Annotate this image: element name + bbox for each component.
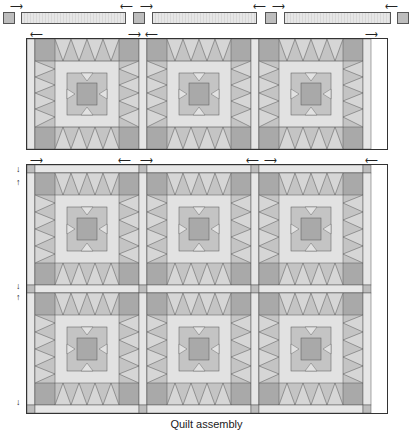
arrow-down-icon: ↓ [16, 398, 21, 407]
diagram-caption: Quilt assembly [0, 418, 413, 430]
block-row-1 [26, 38, 388, 150]
cornerstone-2 [133, 12, 145, 24]
arrow-right-icon: ⟶ [272, 2, 285, 11]
arrow-up-icon: ↑ [16, 293, 21, 302]
block-row-1-art [27, 39, 387, 149]
sashing-strip-1 [21, 12, 126, 24]
arrow-up-icon: ↑ [16, 178, 21, 187]
arrow-right-icon: ⟶ [140, 2, 153, 11]
arrow-down-icon: ↓ [16, 165, 21, 174]
cornerstone-4 [397, 12, 409, 24]
joined-quilt-rows [26, 164, 388, 414]
arrow-left-icon: ⟵ [120, 2, 133, 11]
arrow-left-icon: ⟵ [253, 2, 266, 11]
cornerstone-3 [265, 12, 277, 24]
sashing-strip-3 [284, 12, 391, 24]
arrow-down-icon: ↓ [16, 282, 21, 291]
arrow-right-icon: ⟶ [10, 2, 23, 11]
cornerstone-1 [3, 12, 15, 24]
sashing-strip-2 [152, 12, 257, 24]
arrow-left-icon: ⟵ [385, 2, 398, 11]
joined-rows-art [27, 165, 387, 413]
